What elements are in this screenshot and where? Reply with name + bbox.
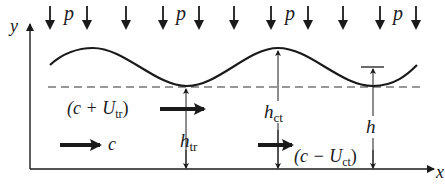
x-axis-label: x: [435, 162, 444, 182]
h-local-label: h: [366, 116, 376, 137]
pressure-label: p: [62, 2, 74, 25]
pressure-label: p: [391, 2, 403, 25]
wave-diagram: y x p p p p htr: [0, 0, 445, 184]
trough-velocity-label: (c + Utr): [67, 98, 128, 121]
crest-velocity-label: (c − Uct): [294, 146, 357, 169]
pressure-label: p: [174, 2, 186, 25]
y-axis-label: y: [8, 16, 18, 36]
h-trough-label: htr: [180, 130, 198, 154]
wave-speed-label: c: [108, 134, 116, 154]
pressure-label: p: [283, 2, 295, 25]
pressure-arrowheads: [45, 20, 421, 30]
